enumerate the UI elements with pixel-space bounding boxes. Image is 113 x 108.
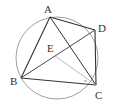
label-a: A bbox=[44, 3, 52, 15]
label-c: C bbox=[95, 89, 102, 101]
geometry-figure: α α A D E B C bbox=[0, 0, 113, 108]
segment-dc bbox=[95, 30, 96, 85]
label-b: B bbox=[10, 75, 17, 87]
label-e: E bbox=[47, 42, 54, 54]
angle-mark-1: α bbox=[89, 73, 92, 78]
segment-ad bbox=[50, 17, 95, 30]
angle-mark-2: α bbox=[84, 78, 87, 83]
label-d: D bbox=[98, 22, 106, 34]
segment-ec bbox=[55, 56, 96, 85]
circumcircle bbox=[16, 17, 98, 99]
diagram-canvas: α α A D E B C bbox=[0, 0, 113, 108]
